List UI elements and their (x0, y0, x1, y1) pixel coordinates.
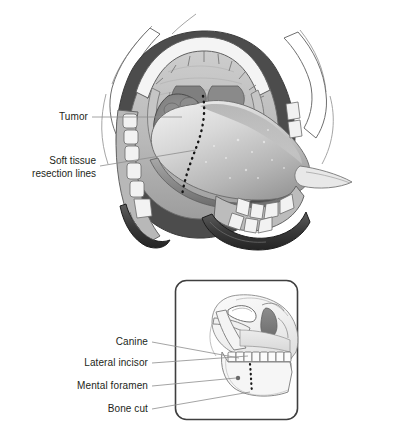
skull-inset-illustration (152, 281, 298, 420)
label-bone-cut: Bone cut (83, 403, 148, 415)
label-canine: Canine (88, 336, 148, 348)
label-mental-foramen-text: Mental foramen (77, 380, 148, 391)
label-soft-tissue-line2: resection lines (16, 167, 96, 180)
tongue-tip (295, 166, 352, 188)
label-lateral-incisor: Lateral incisor (58, 357, 148, 369)
label-lateral-incisor-text: Lateral incisor (84, 357, 148, 368)
illustration-canvas (0, 0, 404, 438)
medical-illustration-figure: Tumor Soft tissue resection lines Canine… (0, 0, 404, 438)
label-mental-foramen: Mental foramen (48, 380, 148, 392)
label-soft-tissue-line1: Soft tissue (16, 154, 96, 167)
label-tumor-text: Tumor (59, 111, 88, 122)
intraoral-illustration (92, 14, 352, 250)
label-canine-text: Canine (116, 336, 148, 347)
label-soft-tissue-resection-lines: Soft tissue resection lines (16, 154, 96, 180)
label-bone-cut-text: Bone cut (108, 403, 148, 414)
label-tumor: Tumor (48, 111, 88, 123)
mental-foramen-marker (236, 376, 240, 380)
